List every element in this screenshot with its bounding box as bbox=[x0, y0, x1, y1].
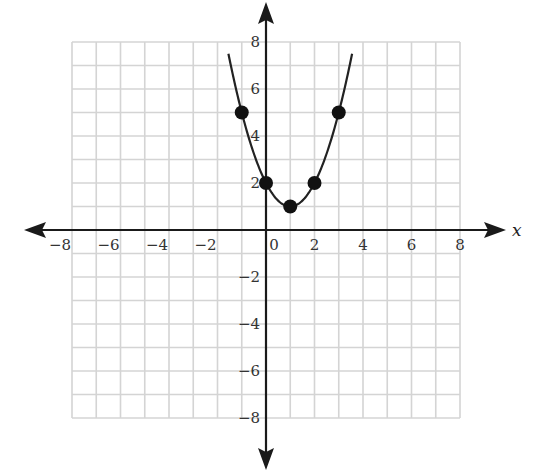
x-tick-label: 2 bbox=[310, 236, 320, 254]
x-tick-label: −2 bbox=[194, 236, 216, 254]
data-point bbox=[259, 176, 273, 190]
x-tick-label: 6 bbox=[407, 236, 417, 254]
data-point bbox=[332, 106, 346, 120]
y-tick-label: −2 bbox=[238, 268, 260, 286]
y-tick-label: −8 bbox=[238, 409, 260, 427]
data-point bbox=[308, 176, 322, 190]
x-axis-label: x bbox=[512, 220, 522, 240]
y-tick-label: 2 bbox=[250, 174, 260, 192]
x-tick-label: −8 bbox=[49, 236, 71, 254]
x-tick-label: −6 bbox=[97, 236, 119, 254]
y-tick-label: −6 bbox=[238, 362, 260, 380]
x-tick-label: 4 bbox=[358, 236, 368, 254]
data-point bbox=[283, 200, 297, 214]
x-tick-label: 8 bbox=[455, 236, 465, 254]
y-tick-label: 6 bbox=[250, 80, 260, 98]
y-tick-label: 4 bbox=[250, 127, 260, 145]
coordinate-plane: x −8−6−4−202468−8−6−4−22468 bbox=[0, 0, 546, 474]
y-tick-label: −4 bbox=[238, 315, 260, 333]
x-tick-label: −4 bbox=[146, 236, 168, 254]
x-tick-label: 0 bbox=[269, 236, 279, 254]
data-point bbox=[235, 106, 249, 120]
y-tick-label: 8 bbox=[250, 33, 260, 51]
